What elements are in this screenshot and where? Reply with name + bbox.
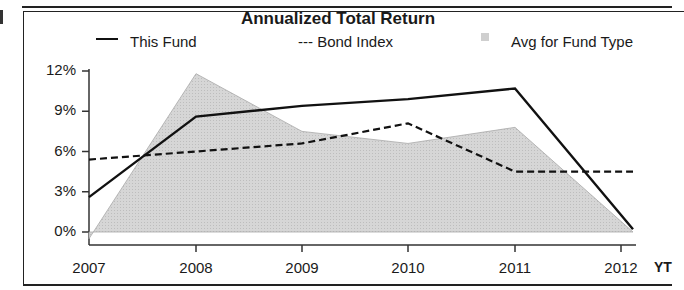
x-tick-label: 2007 [64,259,114,276]
y-tick-label: 9% [36,101,76,118]
x-tick-label: 2012 [596,259,646,276]
x-tick-label: 2009 [277,259,327,276]
series-layer [89,74,633,239]
y-tick-label: 3% [36,182,76,199]
avg-fund-type-area [89,74,633,239]
y-tick-label: 0% [36,222,76,239]
ytd-label: YT [654,259,672,275]
x-tick-label: 2008 [171,259,221,276]
y-tick-label: 6% [36,142,76,159]
x-tick-label: 2010 [383,259,433,276]
x-tick-label: 2011 [490,259,540,276]
y-tick-label: 12% [36,61,76,78]
